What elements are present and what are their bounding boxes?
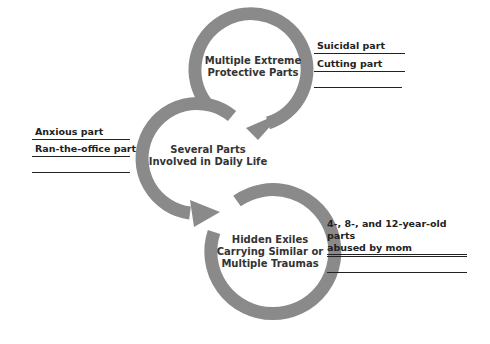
node-managers-label: Several Parts Involved in Daily Life: [143, 144, 273, 168]
label-line: Multiple Traumas: [210, 258, 330, 270]
label-line: Multiple Extreme: [203, 55, 303, 67]
annotation-blank: [314, 74, 402, 88]
node-protectors-label: Multiple Extreme Protective Parts: [203, 55, 303, 79]
label-line: Hidden Exiles: [210, 234, 330, 246]
label-line: Carrying Similar or: [210, 246, 330, 258]
annotation-ran-the-office: Ran-the-office part: [32, 143, 130, 157]
label-line: Several Parts: [143, 144, 273, 156]
annotation-blank: [327, 259, 467, 273]
label-line: Involved in Daily Life: [143, 156, 273, 168]
annotation-anxious: Anxious part: [32, 126, 130, 140]
annotation-suicidal: Suicidal part: [314, 40, 405, 54]
annotation-blank: [32, 159, 130, 173]
label-line: Protective Parts: [203, 67, 303, 79]
annotation-blank: [327, 243, 467, 257]
arrowhead-managers: [190, 200, 220, 227]
annotation-cutting: Cutting part: [314, 58, 405, 72]
node-exiles-label: Hidden Exiles Carrying Similar or Multip…: [210, 234, 330, 270]
annotation-line: 4-, 8-, and 12-year-old parts: [327, 218, 467, 242]
